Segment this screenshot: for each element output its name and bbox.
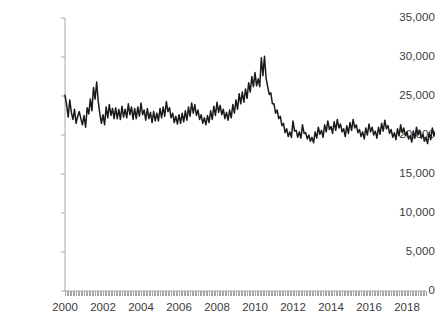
x-axis — [65, 291, 427, 296]
line-chart: 05,00010,00015,00020,00025,00030,00035,0… — [0, 0, 435, 333]
x-axis-minor-ticks — [66, 291, 427, 296]
y-axis — [61, 18, 65, 291]
plot-area — [0, 0, 435, 333]
y-axis-ticks — [61, 18, 65, 291]
data-line-series — [65, 56, 435, 145]
